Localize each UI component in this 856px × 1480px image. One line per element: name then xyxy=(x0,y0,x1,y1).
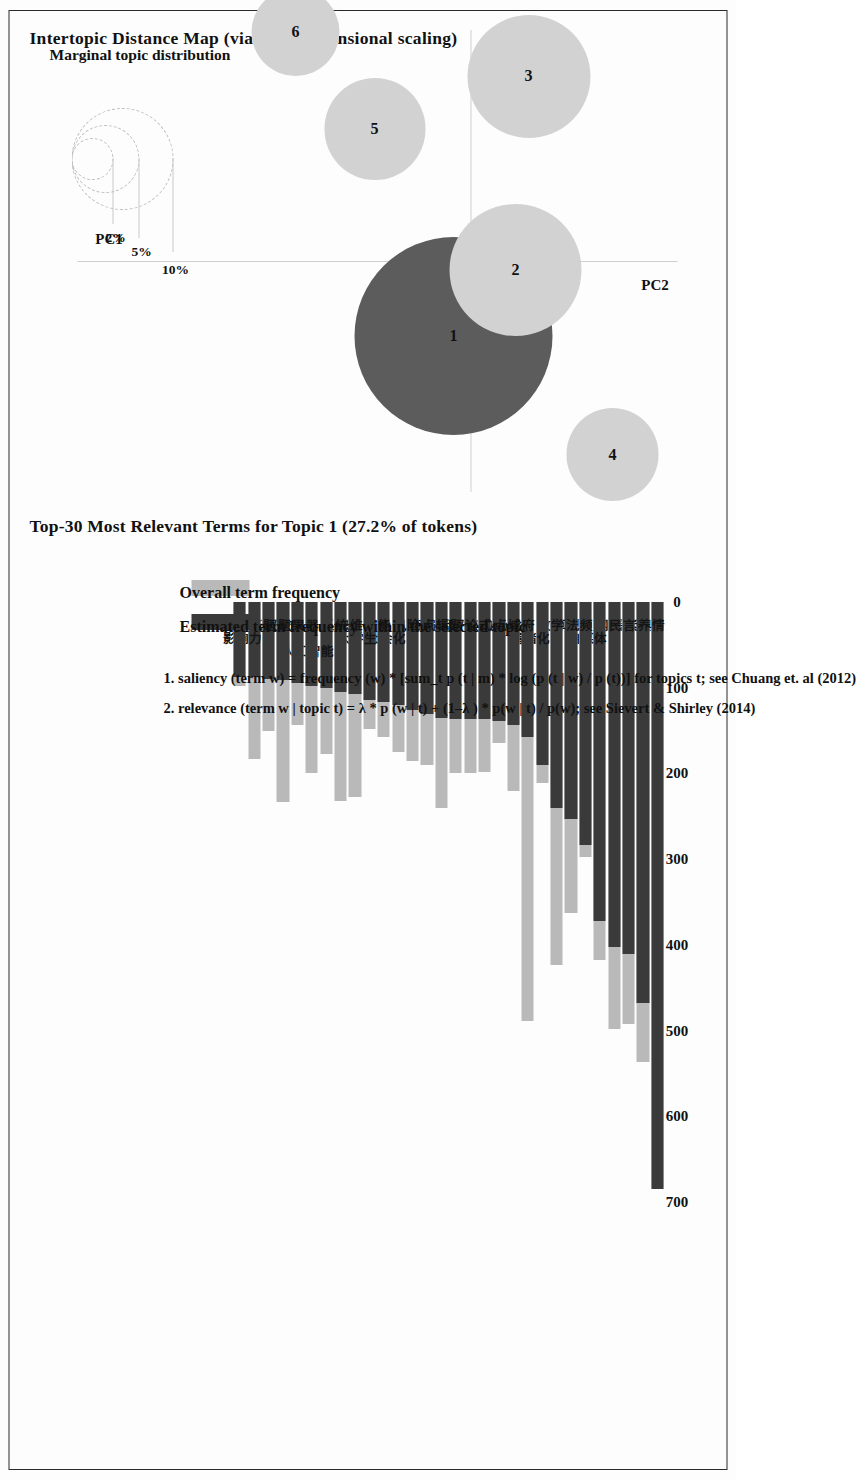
bar-rows: 舆情素养谣言网民自媒体视频算法数学情绪化政府场域热点仪式评论话题编辑特点风险社会… xyxy=(233,602,663,1202)
marginal-topic-distribution-legend: Marginal topic distribution 2%5%10% xyxy=(29,40,249,290)
size-legend-label-text: 5% xyxy=(131,244,151,260)
topic-bubble-3[interactable]: 3 xyxy=(467,15,590,138)
top-terms-bar-panel: Top-30 Most Relevant Terms for Topic 1 (… xyxy=(19,510,719,1460)
topic-bubble-label: 2 xyxy=(511,261,519,279)
topic-bubble-label: 1 xyxy=(449,327,457,345)
value-axis-tick-label: 0 xyxy=(673,594,681,611)
topic-bubble-label: 3 xyxy=(524,67,532,85)
value-axis-tick-700: 700 xyxy=(668,1191,685,1214)
size-legend-label-text: 10% xyxy=(162,262,189,278)
value-axis-tick-200: 200 xyxy=(668,762,685,785)
axis-label-pc2: PC2 xyxy=(641,277,669,294)
bar-chart-legend: Overall term frequencyEstimated term fre… xyxy=(39,580,249,1340)
intertopic-distance-map-panel: Intertopic Distance Map (via multidimens… xyxy=(19,22,719,502)
size-legend-circle-10pct xyxy=(71,108,173,210)
size-legend-label-10pct: 10% xyxy=(167,256,183,283)
formula-note-2: 2. relevance (term w | topic t) = λ * p … xyxy=(163,700,755,717)
value-axis-tick-label: 300 xyxy=(665,851,688,868)
topic-bubble-4[interactable]: 4 xyxy=(566,408,658,500)
size-legend-title: Marginal topic distribution xyxy=(49,46,230,64)
value-axis-tick-0: 0 xyxy=(668,598,685,606)
topic-bubble-label: 5 xyxy=(370,120,378,138)
value-axis-ticks: 0100200300400500600700 xyxy=(667,602,685,1202)
topic-bubble-label: 6 xyxy=(291,23,299,41)
formula-note-1: 1. saliency (term w) = frequency (w) * [… xyxy=(163,670,856,687)
size-legend-tick xyxy=(172,158,173,252)
value-axis-tick-300: 300 xyxy=(668,848,685,871)
value-axis-tick-label: 400 xyxy=(665,936,688,953)
value-axis-tick-label: 700 xyxy=(665,1194,688,1211)
legend-label-overall: Overall term frequency xyxy=(179,584,340,602)
value-axis-tick-500: 500 xyxy=(668,1019,685,1042)
size-legend-label-5pct: 5% xyxy=(133,242,149,262)
topic-bubble-5[interactable]: 5 xyxy=(324,78,425,179)
size-legend-label-text: 2% xyxy=(105,230,125,246)
size-legend-label-2pct: 2% xyxy=(107,228,123,248)
value-axis-tick-label: 200 xyxy=(665,765,688,782)
topic-bubble-2[interactable]: 2 xyxy=(449,204,581,336)
value-axis-tick-label: 500 xyxy=(665,1022,688,1039)
value-axis-tick-400: 400 xyxy=(668,934,685,957)
value-axis-tick-600: 600 xyxy=(668,1105,685,1128)
legend-label-estimated: Estimated term frequency within the sele… xyxy=(179,618,525,636)
topic-bubble-label: 4 xyxy=(608,446,616,464)
topic-bubble-6[interactable]: 6 xyxy=(251,0,339,76)
value-axis-tick-label: 600 xyxy=(665,1108,688,1125)
